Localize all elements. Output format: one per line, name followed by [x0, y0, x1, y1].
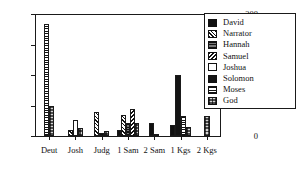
x-axis-tick — [49, 136, 50, 140]
chart-legend: DavidNarratorHannahSamuelJoshuaSolomonMo… — [204, 13, 296, 109]
legend-item-david[interactable]: David — [208, 17, 295, 28]
x-axis-group-label: 2 Sam — [141, 146, 167, 155]
legend-item-moses[interactable]: Moses — [208, 84, 295, 95]
legend-swatch-icon — [208, 30, 217, 38]
bar-group-deut — [44, 14, 54, 136]
y-axis-tick-label: 0 — [254, 132, 258, 141]
legend-swatch-icon — [208, 75, 217, 83]
plot-area — [36, 14, 220, 136]
legend-swatch-icon — [208, 19, 217, 27]
legend-item-label: Solomon — [223, 74, 254, 83]
x-axis-group-label: 1 Kgs — [167, 146, 193, 155]
legend-swatch-icon — [208, 63, 217, 71]
bar-group-2-sam — [149, 14, 159, 136]
x-axis-group-label: 1 Sam — [115, 146, 141, 155]
bar-god — [49, 106, 54, 137]
x-axis-tick — [207, 136, 208, 140]
legend-item-label: David — [223, 18, 244, 27]
legend-swatch-icon — [208, 52, 217, 60]
x-axis-group-label: Judg — [89, 146, 115, 155]
legend-item-label: Joshua — [223, 63, 246, 72]
x-axis-tick — [102, 136, 103, 140]
x-axis-group-label: 2 Kgs — [194, 146, 220, 155]
x-axis-group-label: Deut — [36, 146, 62, 155]
legend-item-label: Hannah — [223, 40, 249, 49]
x-axis-tick — [75, 136, 76, 140]
x-axis-tick — [181, 136, 182, 140]
bar-god — [78, 128, 83, 136]
bar-group-josh — [68, 14, 84, 136]
bar-god — [204, 116, 210, 136]
bar-god — [186, 127, 191, 136]
x-axis-group-label: Josh — [62, 146, 88, 155]
bar-god — [135, 123, 139, 136]
legend-swatch-icon — [208, 41, 217, 49]
x-axis-tick — [154, 136, 155, 140]
legend-item-god[interactable]: God — [208, 95, 295, 106]
legend-item-solomon[interactable]: Solomon — [208, 73, 295, 84]
legend-item-hannah[interactable]: Hannah — [208, 39, 295, 50]
legend-swatch-icon — [208, 86, 217, 94]
x-axis-tick — [128, 136, 129, 140]
legend-item-joshua[interactable]: Joshua — [208, 62, 295, 73]
bar-group-1-sam — [117, 14, 139, 136]
legend-item-label: God — [223, 96, 238, 105]
legend-item-label: Narrator — [223, 29, 252, 38]
bar-group-1-kgs — [170, 14, 191, 136]
legend-item-narrator[interactable]: Narrator — [208, 28, 295, 39]
legend-swatch-icon — [208, 97, 217, 105]
bar-group-judg — [94, 14, 110, 136]
legend-item-samuel[interactable]: Samuel — [208, 51, 295, 62]
legend-item-label: Samuel — [223, 52, 249, 61]
y-axis-tick — [31, 136, 36, 137]
bar-chart: 2001000 DeutJoshJudg1 Sam2 Sam1 Kgs2 Kgs… — [0, 0, 298, 180]
legend-item-label: Moses — [223, 85, 245, 94]
bar-god — [104, 131, 109, 136]
bar-god — [154, 134, 159, 136]
